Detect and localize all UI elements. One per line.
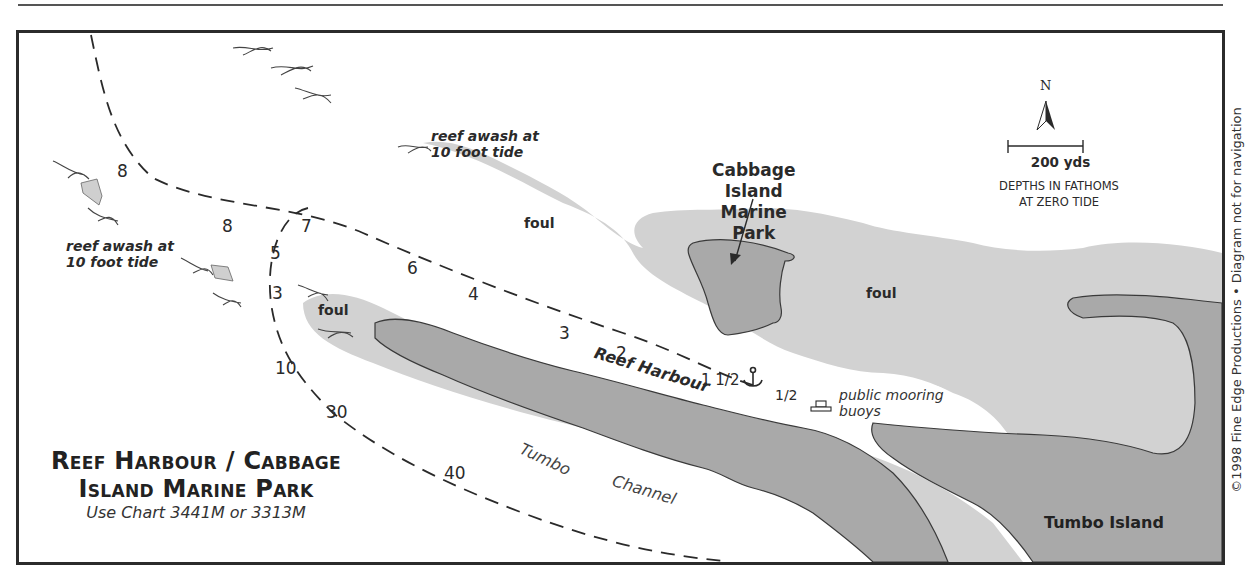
- map-title-line1: Reef Harbour / Cabbage: [41, 447, 351, 475]
- rock-west-2: [211, 265, 233, 281]
- north-arrow-icon: [1037, 101, 1055, 130]
- depth-units-note-line2: AT ZERO TIDE: [974, 194, 1144, 210]
- depth-sounding: 8: [117, 163, 128, 180]
- mooring-label-line2: buoys: [839, 403, 944, 419]
- cabbage-island-land: [688, 240, 794, 335]
- reef-awash-note-line1: reef awash at: [431, 128, 539, 144]
- reef-awash-note-north: reef awash at 10 foot tide: [431, 128, 539, 160]
- foul-label-east: foul: [866, 286, 896, 300]
- mooring-label-line1: public mooring: [839, 387, 944, 403]
- depth-sounding: 10: [275, 360, 297, 377]
- depth-sounding: 3: [272, 285, 283, 302]
- mooring-buoys-label: public mooring buoys: [839, 387, 944, 419]
- depth-units-note: DEPTHS IN FATHOMS AT ZERO TIDE: [974, 178, 1144, 210]
- page-top-rule: [18, 4, 1223, 6]
- depth-sounding: 40: [444, 465, 466, 482]
- scale-bar: [1008, 140, 1083, 153]
- kelp-symbols: [53, 47, 431, 338]
- reef-awash-note-line1: reef awash at: [66, 238, 174, 254]
- depth-sounding: 3: [559, 325, 570, 342]
- depth-sounding: 1/2: [775, 388, 798, 402]
- depth-sounding: 7: [301, 218, 312, 235]
- reef-awash-note-line2: 10 foot tide: [66, 254, 174, 270]
- north-label: N: [1040, 79, 1051, 92]
- reef-awash-note-west: reef awash at 10 foot tide: [66, 238, 174, 270]
- scale-label: 200 yds: [1023, 156, 1098, 170]
- tumbo-island-label: Tumbo Island: [1044, 515, 1164, 531]
- reef-awash-note-line2: 10 foot tide: [431, 144, 539, 160]
- cabbage-island-label-line: Marine: [712, 202, 795, 223]
- depth-units-note-line1: DEPTHS IN FATHOMS: [974, 178, 1144, 194]
- anchor-icon: [744, 368, 762, 387]
- depth-sounding: 8: [222, 218, 233, 235]
- cabbage-island-label: Cabbage Island Marine Park: [712, 160, 795, 244]
- map-frame: Strait of Georgia reef awash at 10 foot …: [16, 30, 1225, 565]
- depth-sounding: 5: [270, 245, 281, 262]
- depth-sounding: 1 1/2: [701, 373, 739, 388]
- cabbage-island-label-line: Island: [712, 181, 795, 202]
- depth-sounding: 4: [468, 286, 479, 303]
- depth-sounding: 6: [407, 260, 418, 277]
- map-subtitle: Use Chart 3441M or 3313M: [41, 505, 351, 521]
- depth-sounding: 30: [326, 404, 348, 421]
- map-title: Reef Harbour / Cabbage Island Marine Par…: [41, 447, 351, 503]
- cabbage-island-label-line: Cabbage: [712, 160, 795, 181]
- foul-label-north: foul: [524, 216, 554, 230]
- map-title-line2: Island Marine Park: [41, 475, 351, 503]
- cabbage-island-label-line: Park: [712, 223, 795, 244]
- depth-sounding: 2: [616, 345, 627, 362]
- rock-west-1: [81, 179, 102, 205]
- copyright-notice: ©1998 Fine Edge Productions • Diagram no…: [1229, 107, 1244, 492]
- foul-label-west: foul: [318, 303, 348, 317]
- mooring-buoy-icon: [811, 401, 831, 411]
